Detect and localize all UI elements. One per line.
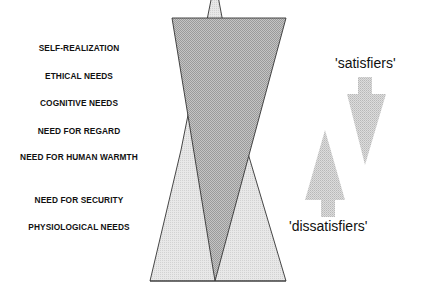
need-security: NEED FOR SECURITY	[0, 195, 158, 206]
dissatisfiers-label: 'dissatisfiers'	[289, 218, 367, 234]
need-self-realization: SELF-REALIZATION	[0, 43, 158, 54]
need-human-warmth: NEED FOR HUMAN WARMTH	[4, 152, 154, 163]
up-arrow-icon	[305, 130, 345, 217]
satisfiers-label: 'satisfiers'	[335, 55, 396, 71]
need-cognitive: COGNITIVE NEEDS	[0, 98, 158, 109]
need-physiological: PHYSIOLOGICAL NEEDS	[0, 222, 158, 233]
down-arrow-icon	[347, 77, 386, 165]
need-ethical: ETHICAL NEEDS	[0, 71, 158, 82]
need-regard: NEED FOR REGARD	[0, 126, 158, 137]
